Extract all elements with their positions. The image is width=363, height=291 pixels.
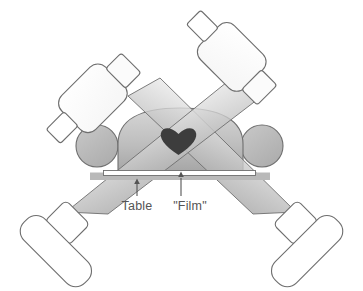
table-label: Table bbox=[122, 199, 153, 213]
diagram-canvas: Table "Film" bbox=[0, 0, 363, 291]
film-label: "Film" bbox=[173, 199, 207, 213]
biplane-xray-diagram: Table "Film" bbox=[0, 0, 363, 291]
patient-right-arm bbox=[241, 125, 283, 167]
